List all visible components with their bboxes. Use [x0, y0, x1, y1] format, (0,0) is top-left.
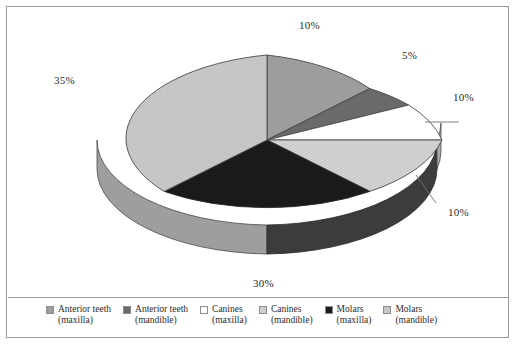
legend-swatch-icon-molars-maxilla [325, 306, 333, 314]
legend-label-canines-mandible: Canines (mandible) [271, 304, 313, 326]
legend-label-line2: (maxilla) [212, 315, 247, 326]
pct-label-canines-mandible: 10% [448, 206, 469, 218]
pct-label-molars-maxilla: 30% [253, 277, 274, 289]
pct-label-anterior-teeth-maxilla: 10% [299, 19, 320, 31]
legend-label-line2: (mandible) [395, 315, 437, 326]
legend-label-line1: Canines [271, 304, 302, 314]
legend-item-canines-mandible[interactable]: Canines (mandible) [259, 304, 313, 326]
legend-item-molars-maxilla[interactable]: Molars (maxilla) [325, 304, 372, 326]
chart-legend: Anterior teeth (maxilla) Anterior teeth … [8, 297, 509, 337]
pie-chart-graphic [7, 7, 508, 307]
legend-item-anterior-teeth-mandible[interactable]: Anterior teeth (mandible) [123, 304, 188, 326]
legend-item-molars-mandible[interactable]: Molars (mandible) [383, 304, 437, 326]
legend-label-molars-maxilla: Molars (maxilla) [337, 304, 372, 326]
legend-label-line1: Anterior teeth [135, 304, 188, 314]
legend-label-line2: (maxilla) [58, 315, 111, 326]
pie-top-face [126, 55, 442, 208]
legend-label-line1: Molars [337, 304, 364, 314]
legend-swatch-icon-molars-mandible [383, 306, 391, 314]
legend-label-line2: (mandible) [135, 315, 188, 326]
legend-label-anterior-teeth-mandible: Anterior teeth (mandible) [135, 304, 188, 326]
legend-label-line1: Molars [395, 304, 422, 314]
legend-item-canines-maxilla[interactable]: Canines (maxilla) [200, 304, 247, 326]
pie-chart-figure: 10% 5% 10% 10% 30% 35% Anterior teeth (m… [0, 0, 517, 352]
pie-plot-area: 10% 5% 10% 10% 30% 35% [7, 7, 508, 307]
legend-label-line2: (mandible) [271, 315, 313, 326]
legend-label-line1: Canines [212, 304, 243, 314]
legend-swatch-icon-canines-maxilla [200, 306, 208, 314]
legend-label-anterior-teeth-maxilla: Anterior teeth (maxilla) [58, 304, 111, 326]
legend-label-line2: (maxilla) [337, 315, 372, 326]
legend-swatch-icon-canines-mandible [259, 306, 267, 314]
legend-item-anterior-teeth-maxilla[interactable]: Anterior teeth (maxilla) [46, 304, 111, 326]
pct-label-molars-mandible: 35% [54, 74, 75, 86]
legend-swatch-icon-anterior-teeth-maxilla [46, 306, 54, 314]
legend-label-molars-mandible: Molars (mandible) [395, 304, 437, 326]
legend-label-line1: Anterior teeth [58, 304, 111, 314]
pct-label-canines-maxilla: 10% [453, 91, 474, 103]
chart-frame: 10% 5% 10% 10% 30% 35% Anterior teeth (m… [6, 6, 509, 338]
legend-label-canines-maxilla: Canines (maxilla) [212, 304, 247, 326]
pct-label-anterior-teeth-mandible: 5% [402, 49, 417, 61]
legend-swatch-icon-anterior-teeth-mandible [123, 306, 131, 314]
